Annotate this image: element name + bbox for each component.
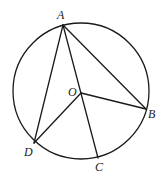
- segment-od: [34, 93, 81, 143]
- segment-ad: [34, 25, 63, 143]
- geometry-diagram: A B C D O: [0, 0, 161, 184]
- segment-ob: [81, 93, 146, 109]
- label-o: O: [68, 85, 77, 99]
- label-a: A: [56, 8, 65, 22]
- label-b: B: [148, 107, 156, 121]
- label-c: C: [95, 160, 104, 174]
- label-d: D: [23, 145, 33, 159]
